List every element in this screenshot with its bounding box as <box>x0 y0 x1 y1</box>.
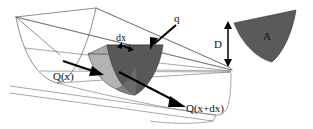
figure-canvas: Q(x) Q(x+dx) q dx A D <box>0 0 313 129</box>
channel-control-volume-diagram: Q(x) Q(x+dx) q dx A D <box>0 0 313 129</box>
control-volume-slab <box>88 45 163 95</box>
datum-plane-connector <box>213 115 216 121</box>
lateral-inflow-label: q <box>174 12 180 24</box>
outflow-label: Q(x+dx) <box>186 102 224 115</box>
thickness-label: dx <box>116 32 126 43</box>
depth-arrow <box>224 21 232 67</box>
area-label: A <box>263 30 271 42</box>
datum-plane-tail <box>150 121 213 123</box>
depth-label: D <box>214 38 222 50</box>
inflow-label: Q(x) <box>53 70 74 83</box>
